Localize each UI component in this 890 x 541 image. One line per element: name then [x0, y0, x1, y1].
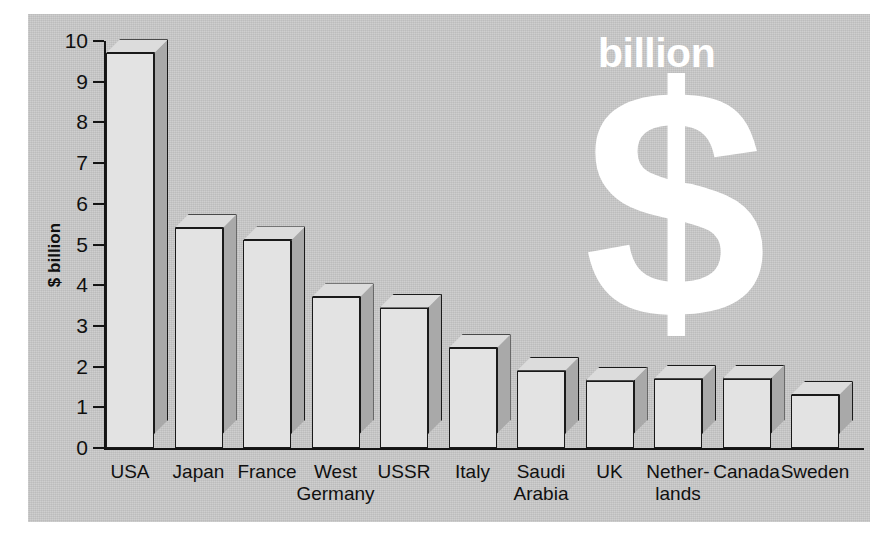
y-axis-tick-label: 7: [62, 152, 88, 173]
plot-area: $ billion 109876543210 USAJapanFranceWes…: [0, 0, 890, 541]
bar-front-face: [380, 308, 428, 448]
y-axis-tick: [93, 121, 104, 123]
bar-side-face: [428, 294, 442, 434]
bar-front-face: [654, 379, 702, 448]
bar-11: [791, 381, 853, 448]
bar-side-face: [223, 214, 237, 434]
y-axis-tick-label: 4: [62, 274, 88, 295]
bar-1: [106, 39, 168, 448]
y-axis-tick-label: 8: [62, 111, 88, 132]
y-axis-tick: [93, 162, 104, 164]
bar-side-face: [360, 283, 374, 434]
bar-front-face: [449, 348, 497, 448]
bar-front-face: [723, 379, 771, 448]
bar-10: [723, 365, 785, 448]
y-axis-tick-label: 5: [62, 234, 88, 255]
y-axis-tick-label: 10: [62, 30, 88, 51]
y-axis-tick-label: 2: [62, 356, 88, 377]
x-axis-label-11: Sweden: [760, 461, 870, 483]
bar-front-face: [791, 395, 839, 448]
y-axis-tick: [93, 203, 104, 205]
y-axis-tick: [93, 447, 104, 449]
bar-9: [654, 365, 716, 448]
y-axis-tick: [93, 40, 104, 42]
bar-side-face: [291, 226, 305, 434]
bar-front-face: [517, 371, 565, 448]
bar-front-face: [586, 381, 634, 448]
bar-side-face: [497, 334, 511, 434]
x-axis-line: [104, 448, 864, 450]
bar-4: [312, 283, 374, 448]
bar-front-face: [243, 240, 291, 448]
y-axis-tick-label: 9: [62, 71, 88, 92]
y-axis-tick: [93, 366, 104, 368]
bar-7: [517, 357, 579, 448]
y-axis-tick: [93, 284, 104, 286]
bar-front-face: [312, 297, 360, 448]
y-axis-tick: [93, 325, 104, 327]
bar-front-face: [106, 53, 154, 448]
y-axis-tick-label: 6: [62, 193, 88, 214]
y-axis-tick-label: 3: [62, 315, 88, 336]
bar-8: [586, 367, 648, 448]
y-axis-tick: [93, 406, 104, 408]
y-axis-tick: [93, 81, 104, 83]
bar-front-face: [175, 228, 223, 448]
y-axis-tick: [93, 244, 104, 246]
bar-3: [243, 226, 305, 448]
bar-6: [449, 334, 511, 448]
chart-screenshot: billion $ $ billion 109876543210 USAJapa…: [0, 0, 890, 541]
bar-5: [380, 294, 442, 448]
y-axis-tick-label: 1: [62, 396, 88, 417]
y-axis-tick-label: 0: [62, 437, 88, 458]
bar-2: [175, 214, 237, 448]
bar-side-face: [154, 39, 168, 434]
